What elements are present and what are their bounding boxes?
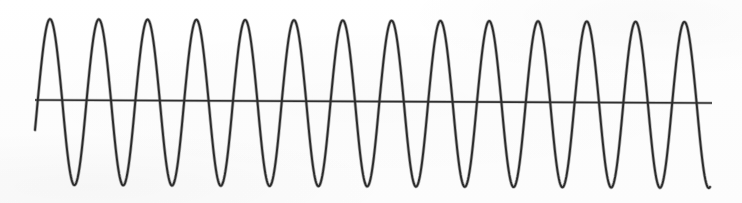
waveform-svg <box>0 0 742 203</box>
waveform-figure <box>0 0 742 203</box>
